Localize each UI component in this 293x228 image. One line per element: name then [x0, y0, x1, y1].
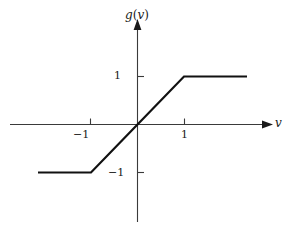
x-tick-label-pos1: 1 [181, 129, 188, 140]
plot-canvas [0, 0, 293, 228]
x-axis-arrowhead [262, 121, 273, 129]
x-tick-label-neg1: −1 [73, 129, 89, 140]
figure-container: g(v) v −1 1 1 −1 [0, 0, 293, 228]
y-axis-label: g(v) [125, 9, 149, 21]
y-tick-label-neg1: −1 [108, 167, 124, 178]
y-axis-label-close-paren: ) [144, 8, 149, 22]
y-tick-label-pos1: 1 [114, 70, 121, 81]
x-axis-label: v [275, 117, 282, 129]
y-axis-label-function: g [125, 8, 133, 22]
